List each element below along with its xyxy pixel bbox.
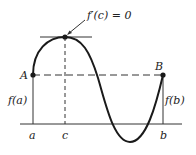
tick-label-a: a xyxy=(29,129,36,142)
rolles-theorem-diagram: f′(c) = 0 A B f(a) f(b) a c b xyxy=(0,0,196,155)
label-f-a: f(a) xyxy=(7,94,27,107)
label-point-a: A xyxy=(19,69,28,82)
point-a-marker xyxy=(30,72,35,77)
point-b-marker xyxy=(160,72,165,77)
derivative-label: f′(c) = 0 xyxy=(86,9,132,22)
label-f-b: f(b) xyxy=(164,94,185,107)
max-point-marker xyxy=(62,34,67,39)
function-curve xyxy=(33,37,163,142)
label-point-b: B xyxy=(154,60,163,73)
tick-label-c: c xyxy=(62,129,68,142)
tick-label-b: b xyxy=(160,129,167,142)
